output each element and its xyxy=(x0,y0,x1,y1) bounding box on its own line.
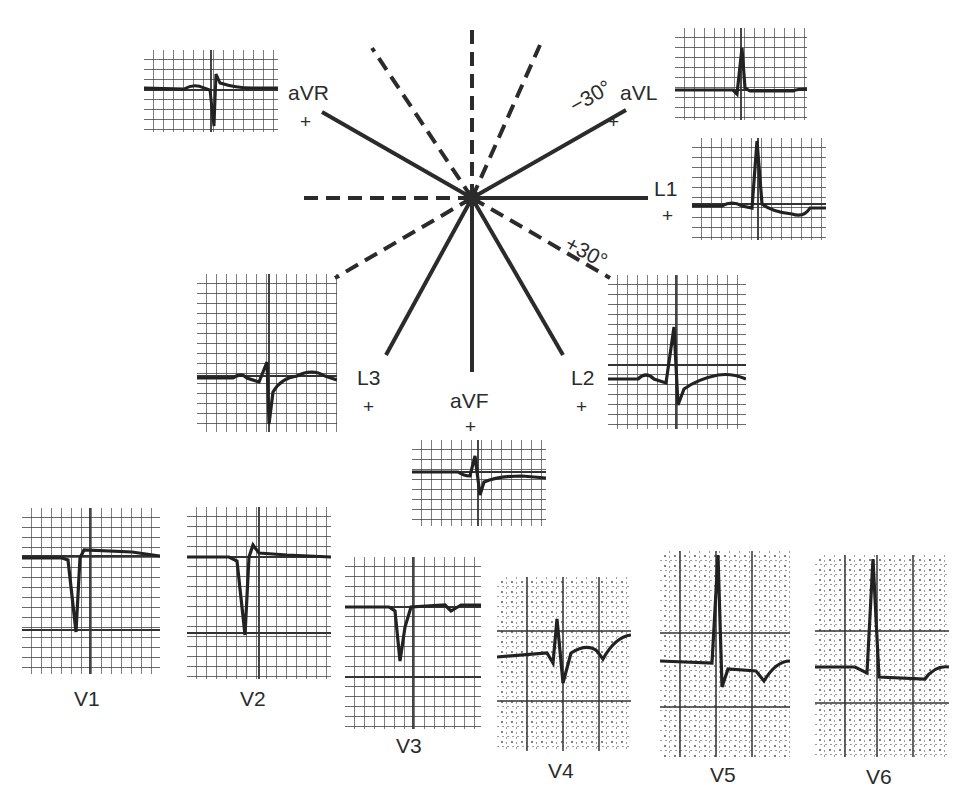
label-v6: V6 xyxy=(866,766,892,787)
label-l2: L2 xyxy=(571,367,594,388)
label-avf: aVF xyxy=(450,390,489,411)
ecg-strip-l2 xyxy=(608,275,746,429)
sign-avr: + xyxy=(300,112,311,131)
sign-avl: + xyxy=(608,112,619,131)
sign-avf: + xyxy=(465,417,476,436)
axis-origin xyxy=(464,190,480,206)
label-v2: V2 xyxy=(240,688,266,709)
label-l1: L1 xyxy=(654,178,677,199)
ecg-strip-v5 xyxy=(660,551,790,757)
ecg-strip-v2 xyxy=(187,507,331,679)
ecg-strip-v4 xyxy=(497,577,631,751)
label-v5: V5 xyxy=(710,764,736,785)
axis-avl xyxy=(472,110,626,198)
label-v1: V1 xyxy=(74,688,100,709)
label-l3: L3 xyxy=(357,367,380,388)
sign-l1: + xyxy=(662,206,673,225)
ecg-strip-avr xyxy=(144,50,278,132)
label-avr: aVR xyxy=(288,82,329,103)
ecg-strip-v3 xyxy=(345,557,481,729)
axis-neg-l3 xyxy=(472,45,540,198)
ecg-strip-avf xyxy=(412,440,546,526)
axis-avr xyxy=(322,112,472,198)
axis-neg-l2 xyxy=(372,48,472,198)
label-avl: aVL xyxy=(620,82,657,103)
axis-l2 xyxy=(472,198,563,355)
ecg-strip-avl xyxy=(675,28,807,120)
ecg-strip-v1 xyxy=(22,508,160,674)
label-v3: V3 xyxy=(396,735,422,756)
sign-l2: + xyxy=(576,397,587,416)
label-v4: V4 xyxy=(548,760,574,781)
sign-l3: + xyxy=(363,397,374,416)
ecg-strip-l3 xyxy=(197,274,337,432)
ecg-strip-l1 xyxy=(692,138,826,240)
ecg-strip-v6 xyxy=(815,555,949,757)
